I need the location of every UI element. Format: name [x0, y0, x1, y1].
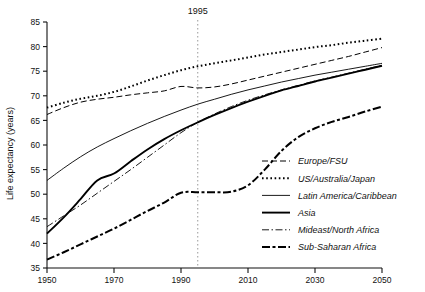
y-tick-label: 50 [31, 189, 41, 199]
x-tick-label: 2030 [306, 275, 325, 285]
x-tick-label: 2010 [239, 275, 258, 285]
legend-label-mideast-north-africa: Mideast/North Africa [298, 225, 379, 235]
y-tick-label: 40 [31, 239, 41, 249]
legend-label-us-australia-japan: US/Australia/Japan [298, 174, 375, 184]
y-tick-label: 60 [31, 140, 41, 150]
legend-label-latin-america-caribbean: Latin America/Caribbean [298, 191, 397, 201]
y-axis-title: Life expectancy (years) [5, 107, 15, 200]
y-tick-label: 70 [31, 91, 41, 101]
x-tick-label: 1950 [38, 275, 57, 285]
y-tick-label: 55 [31, 165, 41, 175]
marker-label-1995: 1995 [188, 6, 208, 16]
x-tick-label: 1970 [105, 275, 124, 285]
life-expectancy-chart: 3540455055606570758085 19501970199020102… [0, 0, 425, 292]
legend-label-europe-fsu: Europe/FSU [298, 156, 348, 166]
legend-label-sub-saharan-africa: Sub-Saharan Africa [298, 242, 376, 252]
x-tick-label: 1990 [172, 275, 191, 285]
y-tick-label: 75 [31, 66, 41, 76]
y-tick-label: 85 [31, 17, 41, 27]
y-tick-label: 80 [31, 42, 41, 52]
legend-label-asia: Asia [297, 208, 316, 218]
y-tick-label: 35 [31, 263, 41, 273]
y-tick-label: 45 [31, 214, 41, 224]
x-tick-label: 2050 [373, 275, 392, 285]
y-tick-label: 65 [31, 116, 41, 126]
chart-canvas: 3540455055606570758085 19501970199020102… [0, 0, 425, 292]
